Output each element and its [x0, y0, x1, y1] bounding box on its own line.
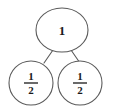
fraction-tree-diagram: 1 1 2 1 2 [0, 0, 113, 111]
connector-line-left [44, 50, 53, 63]
node-half-right-denominator: 2 [77, 84, 83, 96]
node-half-right-numerator: 1 [77, 70, 83, 82]
node-half-left-denominator: 2 [28, 84, 34, 96]
node-half-left-numerator: 1 [28, 70, 34, 82]
node-half-right: 1 2 [58, 61, 102, 105]
node-whole: 1 [36, 8, 88, 52]
diagram-canvas: 1 1 2 1 2 [0, 0, 113, 111]
node-whole-label: 1 [59, 23, 66, 38]
node-half-left: 1 2 [9, 61, 53, 105]
